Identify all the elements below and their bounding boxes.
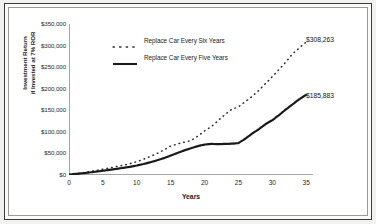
legend-label-five-years: Replace Car Every Five Years [144, 54, 228, 61]
data-label-six-years: $308,263 [306, 36, 334, 43]
chart-legend: Replace Car Every Six Years Replace Car … [112, 32, 262, 66]
x-tick-label: 5 [93, 179, 113, 186]
x-tick-label: 0 [59, 179, 79, 186]
x-tick-label: 25 [228, 179, 248, 186]
y-tick-label: $100,000 [20, 128, 66, 135]
y-tick-label: $50,000 [20, 149, 66, 156]
y-axis-title-line2: if Invested at 7% ROR [29, 32, 37, 95]
x-tick-label: 10 [127, 179, 147, 186]
x-tick-label: 20 [195, 179, 215, 186]
x-axis-tick-labels: 05101520253035 [69, 179, 313, 191]
legend-item-five-years: Replace Car Every Five Years [112, 49, 262, 66]
x-tick-label: 15 [161, 179, 181, 186]
y-tick-label: $0 [20, 171, 66, 178]
series-line-five-years [69, 95, 306, 175]
legend-label-six-years: Replace Car Every Six Years [144, 37, 225, 44]
legend-key-solid-icon [112, 54, 138, 62]
data-label-five-years: $185,883 [306, 92, 334, 99]
legend-key-dotted-icon [112, 37, 138, 45]
x-axis-title: Years [69, 193, 313, 200]
x-tick-label: 30 [262, 179, 282, 186]
legend-item-six-years: Replace Car Every Six Years [112, 32, 262, 49]
y-axis-title-line1: Investment Return [21, 36, 29, 89]
chart-page: $0$50,000$100,000$150,000$200,000$250,00… [0, 0, 376, 224]
x-tick-label: 35 [296, 179, 316, 186]
y-axis-title: Investment Return if Invested at 7% ROR [18, 8, 40, 118]
